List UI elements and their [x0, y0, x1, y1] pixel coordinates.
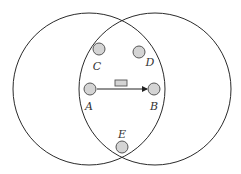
node-d-label: D	[145, 56, 155, 69]
node-d[interactable]: D	[133, 46, 155, 69]
node-c-label: C	[93, 60, 102, 73]
diagram-canvas: C D A B E	[0, 0, 241, 174]
node-b-circle[interactable]	[148, 83, 160, 95]
node-e-circle[interactable]	[116, 141, 128, 153]
node-a[interactable]: A	[84, 83, 96, 113]
node-a-circle[interactable]	[84, 83, 96, 95]
node-b[interactable]: B	[148, 83, 160, 113]
node-a-label: A	[84, 100, 93, 113]
node-c[interactable]: C	[93, 43, 105, 73]
node-e[interactable]: E	[116, 128, 128, 153]
node-e-label: E	[117, 128, 126, 141]
node-c-circle[interactable]	[93, 43, 105, 55]
node-b-label: B	[149, 100, 158, 113]
packet-icon	[115, 80, 127, 86]
node-d-circle[interactable]	[133, 46, 145, 58]
